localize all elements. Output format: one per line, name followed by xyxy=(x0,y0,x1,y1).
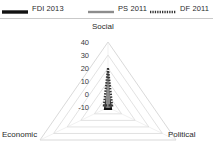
legend-item-fdi-2013: FDI 2013 xyxy=(2,2,64,14)
axis-spoke xyxy=(108,107,176,140)
legend-swatch-ps-2011 xyxy=(88,3,114,13)
legend-item-df-2011: DF 2011 xyxy=(150,2,209,14)
radial-tick-label: -10 xyxy=(69,103,89,112)
legend-item-ps-2011: PS 2011 xyxy=(88,2,147,14)
radial-tick-label: 40 xyxy=(69,38,89,47)
legend-swatch-df-2011 xyxy=(150,3,176,13)
legend-swatch-fdi-2013 xyxy=(2,3,28,13)
legend-label-ps-2011: PS 2011 xyxy=(118,4,147,13)
axis-label-political: Political xyxy=(168,130,196,139)
radial-tick-label: 10 xyxy=(69,77,89,86)
radar-plot-svg xyxy=(0,19,213,162)
radial-tick-label: 30 xyxy=(69,51,89,60)
legend-label-df-2011: DF 2011 xyxy=(180,4,209,13)
chart-plot-area: Social Economic Political 403020100-10 xyxy=(0,19,213,162)
axis-label-economic: Economic xyxy=(2,130,37,139)
axis-label-social: Social xyxy=(92,22,114,31)
radar-chart-figure: FDI 2013 PS 2011 DF 2011 Soci xyxy=(0,0,213,162)
radial-tick-label: 20 xyxy=(69,64,89,73)
chart-legend: FDI 2013 PS 2011 DF 2011 xyxy=(0,0,213,19)
legend-label-fdi-2013: FDI 2013 xyxy=(32,4,64,13)
radial-tick-label: 0 xyxy=(69,90,89,99)
